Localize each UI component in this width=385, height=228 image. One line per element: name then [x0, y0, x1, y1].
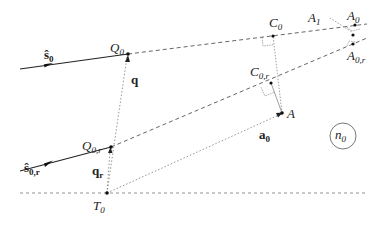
label-q0: Q0 [110, 40, 124, 57]
label-a0-vector: a0 [259, 127, 271, 144]
arrow-icon [125, 55, 130, 62]
label-a0r: A0,r [346, 48, 366, 65]
label-a0: A0 [346, 8, 360, 25]
label-a: A [286, 106, 295, 121]
label-q: q [131, 72, 139, 87]
point-t0 [105, 191, 109, 195]
point-a [280, 111, 284, 115]
point-q0 [126, 52, 130, 56]
vector-q [107, 57, 127, 193]
label-a1: A1 [307, 10, 320, 27]
vector-qr [107, 150, 110, 193]
point-q0r [109, 145, 113, 149]
point-a-mid [351, 33, 354, 36]
dashed-ray-q0r-a0r [111, 38, 367, 147]
arrow-icon [44, 161, 53, 167]
point-c0r [269, 81, 272, 84]
right-angle-c0 [262, 37, 274, 46]
ray-geometry-diagram: ŝ0 Q0 q Q0,r ŝ0,r qr T0 C0 C0,r A a0 A0 … [0, 0, 385, 228]
incident-ray-s0 [20, 54, 128, 69]
point-c0 [271, 34, 274, 37]
label-s0r: ŝ0,r [24, 160, 40, 177]
vector-a0 [107, 114, 281, 193]
label-q0r: Q0,r [82, 138, 102, 155]
label-medium-n0: n0 [335, 127, 347, 144]
label-s0: ŝ0 [44, 47, 54, 64]
point-a0r [351, 42, 354, 45]
label-qr: qr [92, 163, 103, 180]
label-c0r: C0,r [250, 64, 269, 81]
label-t0: T0 [93, 198, 105, 215]
label-c0: C0 [269, 15, 283, 32]
dashed-ray-q0-a0 [128, 24, 367, 54]
